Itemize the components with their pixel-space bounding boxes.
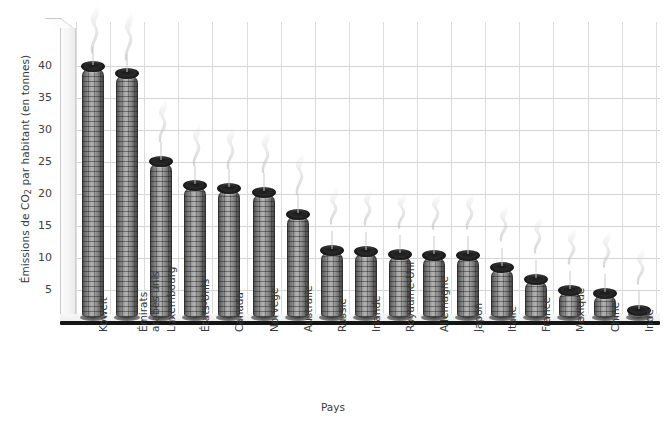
x-axis-tick-label: Chine bbox=[610, 302, 622, 332]
gridline-v-12 bbox=[485, 22, 486, 322]
bar-stack bbox=[82, 67, 104, 317]
smoke-trail bbox=[365, 232, 366, 250]
smoke-plume-icon bbox=[625, 247, 655, 293]
y-axis-tick-25: 25 bbox=[26, 157, 52, 167]
bar-cylinder[interactable] bbox=[82, 67, 104, 317]
x-axis-tick-label: États-Unis bbox=[200, 279, 212, 332]
x-axis-tick-label: Royaume-Uni bbox=[405, 262, 417, 332]
gridline-v-0 bbox=[76, 22, 77, 322]
gridline-v-4 bbox=[212, 22, 213, 322]
x-axis-tick-label: France bbox=[541, 297, 553, 332]
x-axis-tick-label: Italie bbox=[507, 306, 519, 332]
y-axis-tick-30: 30 bbox=[26, 125, 52, 135]
smoke-trail bbox=[399, 235, 400, 253]
smoke-trail bbox=[229, 169, 230, 187]
smoke-trail bbox=[434, 236, 435, 254]
chart-container: Émissions de CO2 par habitant (en tonnes… bbox=[0, 0, 666, 426]
gridline-v-1 bbox=[110, 22, 111, 322]
bar-stack bbox=[116, 74, 138, 317]
x-axis-tick-label: Mexique bbox=[575, 288, 587, 332]
smoke-plume-icon bbox=[147, 98, 177, 144]
gridline-v-13 bbox=[519, 22, 520, 322]
smoke-trail bbox=[502, 248, 503, 266]
bar-cylinder[interactable] bbox=[116, 74, 138, 317]
y-axis-tick-15: 15 bbox=[26, 221, 52, 231]
smoke-plume-icon bbox=[216, 125, 246, 171]
y-axis-tick-20: 20 bbox=[26, 189, 52, 199]
gridline-v-7 bbox=[315, 22, 316, 322]
gridline-v-10 bbox=[417, 22, 418, 322]
x-axis-tick-label: Japon bbox=[473, 303, 485, 332]
smoke-trail bbox=[161, 142, 162, 160]
x-axis-tick-label: Koweït bbox=[98, 297, 110, 332]
smoke-plume-icon bbox=[113, 10, 143, 56]
smoke-plume-icon bbox=[386, 191, 416, 237]
smoke-plume-icon bbox=[181, 122, 211, 168]
smoke-plume-icon bbox=[591, 230, 621, 276]
gridline-v-14 bbox=[553, 22, 554, 322]
gridline-h-35 bbox=[60, 98, 660, 99]
smoke-trail bbox=[263, 173, 264, 191]
gridline-v-15 bbox=[588, 22, 589, 322]
smoke-trail bbox=[127, 54, 128, 72]
smoke-plume-icon bbox=[284, 151, 314, 197]
smoke-trail bbox=[93, 47, 94, 65]
y-axis-title-post: par habitant (en tonnes) bbox=[19, 55, 31, 189]
smoke-plume-icon bbox=[557, 227, 587, 273]
y-axis-tick-40: 40 bbox=[26, 61, 52, 71]
x-axis-tick-label: Irlande bbox=[371, 295, 383, 332]
y-axis-title-pre: Émissions de CO bbox=[19, 194, 31, 283]
x-axis-tick-label: Luxembourg bbox=[166, 267, 178, 332]
y-axis-tick-35: 35 bbox=[26, 93, 52, 103]
x-axis-tick-label: Canada bbox=[234, 292, 246, 332]
gridline-v-5 bbox=[247, 22, 248, 322]
smoke-plume-icon bbox=[488, 204, 518, 250]
gridline-v-3 bbox=[178, 22, 179, 322]
gridline-v-6 bbox=[281, 22, 282, 322]
smoke-trail bbox=[604, 274, 605, 292]
smoke-plume-icon bbox=[522, 216, 552, 262]
x-axis-tick-label: Norvège bbox=[269, 288, 281, 332]
smoke-trail bbox=[570, 271, 571, 289]
x-axis-tick-label: Inde bbox=[644, 309, 656, 332]
x-axis-tick-label: Russie bbox=[337, 298, 349, 332]
smoke-plume-icon bbox=[454, 192, 484, 238]
y-axis-tick-10: 10 bbox=[26, 253, 52, 263]
smoke-trail bbox=[468, 236, 469, 254]
gridline-h-40 bbox=[60, 66, 660, 67]
smoke-plume-icon bbox=[420, 192, 450, 238]
y-axis-tick-5: 5 bbox=[26, 285, 52, 295]
smoke-trail bbox=[331, 231, 332, 249]
gridline-h-30 bbox=[60, 130, 660, 131]
gridline-v-9 bbox=[383, 22, 384, 322]
x-axis-tick-label: Émirats arabes unis bbox=[138, 271, 161, 332]
gridline-v-11 bbox=[451, 22, 452, 322]
smoke-plume-icon bbox=[79, 3, 109, 49]
x-axis-tick-label: Australie bbox=[303, 286, 315, 332]
smoke-trail bbox=[195, 166, 196, 184]
gridline-v-17 bbox=[656, 22, 657, 322]
smoke-plume-icon bbox=[250, 129, 280, 175]
x-axis-title: Pays bbox=[0, 401, 666, 413]
smoke-trail bbox=[638, 291, 639, 309]
x-axis-tick-label: Allemagne bbox=[439, 276, 451, 332]
smoke-trail bbox=[536, 260, 537, 278]
gridline-v-8 bbox=[349, 22, 350, 322]
gridline-v-16 bbox=[622, 22, 623, 322]
axis-wall-front bbox=[60, 28, 76, 320]
smoke-trail bbox=[297, 195, 298, 213]
